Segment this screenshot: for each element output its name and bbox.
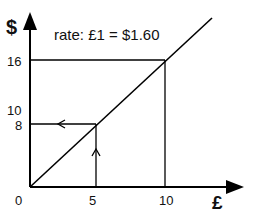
rate-line <box>30 18 212 187</box>
x-axis-label: £ <box>212 192 223 213</box>
exchange-rate-diagram: $ rate: £1 = $1.60 16 10 8 0 5 10 £ <box>0 0 254 221</box>
y-tick-10: 10 <box>7 103 21 118</box>
y-axis-arrow-icon <box>23 12 37 30</box>
x-axis-arrow-icon <box>226 180 244 194</box>
y-tick-8: 8 <box>15 118 22 133</box>
y-axis-label: $ <box>6 16 17 38</box>
rate-title: rate: £1 = $1.60 <box>54 26 160 43</box>
y-tick-16: 16 <box>7 54 21 69</box>
origin-label: 0 <box>15 193 22 208</box>
x-tick-10: 10 <box>159 193 173 208</box>
x-tick-5: 5 <box>89 193 96 208</box>
